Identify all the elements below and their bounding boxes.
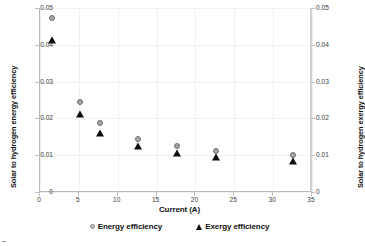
y-axis-left-tick-label: 0.02 <box>40 114 53 121</box>
gridline-vertical <box>40 8 41 191</box>
x-axis-tick-label: 25 <box>230 196 237 203</box>
legend-label: Exergy efficiency <box>205 222 269 231</box>
data-point-energy <box>49 15 55 21</box>
y-axis-left-tick-label: 0.01 <box>40 151 53 158</box>
gridline-horizontal <box>40 118 310 119</box>
x-axis-tick-label: 15 <box>152 196 159 203</box>
data-point-exergy <box>134 143 142 150</box>
data-point-exergy <box>76 110 84 117</box>
y-axis-left-tick-mark <box>35 155 39 156</box>
y-axis-right-tick-label: 0 <box>316 188 320 195</box>
triangle-marker-icon <box>196 224 202 230</box>
corner-mark <box>2 241 6 242</box>
y-axis-left-tick-mark <box>35 8 39 9</box>
x-axis-tick-mark <box>39 192 40 196</box>
gridline-horizontal <box>40 192 310 193</box>
y-axis-left-tick-label: 0.04 <box>40 41 53 48</box>
y-axis-right-tick-label: 0.04 <box>316 41 329 48</box>
x-axis-tick-label: 20 <box>191 196 198 203</box>
y-axis-left-tick-label: 0.05 <box>40 4 53 11</box>
gridline-horizontal <box>40 82 310 83</box>
x-axis-tick-mark <box>117 192 118 196</box>
data-point-exergy <box>212 153 220 160</box>
y-axis-left-tick-label: 0 <box>49 188 53 195</box>
x-axis-tick-label: 30 <box>268 196 275 203</box>
gridline-horizontal <box>40 8 310 9</box>
y-axis-left-tick-mark <box>35 118 39 119</box>
data-point-energy <box>174 143 180 149</box>
gridline-vertical <box>273 8 274 191</box>
x-axis-tick-label: 35 <box>307 196 314 203</box>
data-point-energy <box>97 120 103 126</box>
data-point-exergy <box>289 157 297 164</box>
plot-area <box>39 8 311 192</box>
x-axis-tick-label: 5 <box>76 196 80 203</box>
gridline-horizontal <box>40 45 310 46</box>
y-axis-left-tick-mark <box>35 82 39 83</box>
gridline-vertical <box>118 8 119 191</box>
y-axis-left-tick-label: 0.03 <box>40 78 53 85</box>
y-axis-right-line <box>311 8 312 192</box>
x-axis-tick-mark <box>78 192 79 196</box>
data-point-exergy <box>96 129 104 136</box>
data-point-exergy <box>173 150 181 157</box>
y-axis-right-tick-label: 0.02 <box>316 114 329 121</box>
y-axis-left-tick-mark <box>35 45 39 46</box>
x-axis-tick-mark <box>233 192 234 196</box>
y-axis-right-tick-label: 0.01 <box>316 151 329 158</box>
data-point-energy <box>77 99 83 105</box>
gridline-vertical <box>195 8 196 191</box>
gridline-vertical <box>234 8 235 191</box>
circle-marker-icon <box>90 224 95 229</box>
y-axis-right-tick-label: 0.05 <box>316 4 329 11</box>
legend-item[interactable]: Exergy efficiency <box>196 222 269 231</box>
x-axis-tick-mark <box>156 192 157 196</box>
x-axis-tick-mark <box>272 192 273 196</box>
y-axis-right-tick-label: 0.03 <box>316 78 329 85</box>
gridline-vertical <box>157 8 158 191</box>
x-axis-title: Current (A) <box>0 205 359 214</box>
x-axis-tick-mark <box>311 192 312 196</box>
y-axis-left-title: Solar to hydrogen energy efficiency <box>9 66 18 188</box>
y-axis-right-title: Solar to hydrogen exergy efficiency <box>356 66 365 188</box>
legend-item[interactable]: Energy efficiency <box>90 222 163 231</box>
x-axis-tick-label: 0 <box>37 196 41 203</box>
chart-legend: Energy efficiencyExergy efficiency <box>0 222 359 231</box>
legend-label: Energy efficiency <box>98 222 163 231</box>
x-axis-tick-mark <box>194 192 195 196</box>
gridline-vertical <box>312 8 313 191</box>
data-point-energy <box>135 136 141 142</box>
x-axis-tick-label: 10 <box>113 196 120 203</box>
